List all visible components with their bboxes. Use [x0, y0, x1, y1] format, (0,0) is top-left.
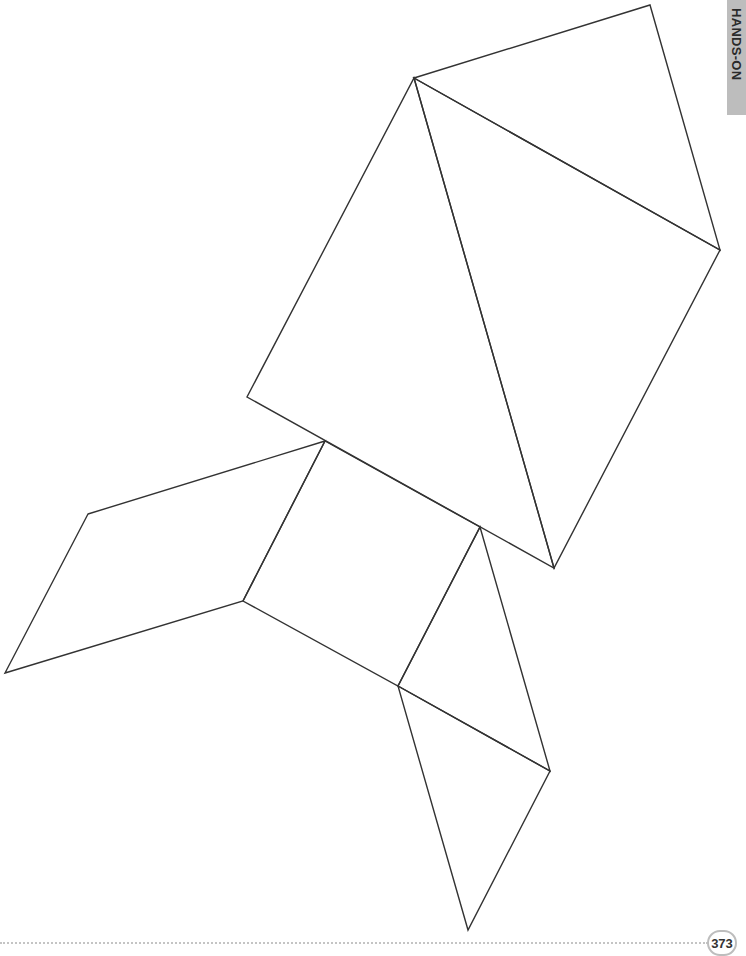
page-number-badge: 373	[707, 930, 737, 956]
section-tab: HANDS-ON	[727, 0, 746, 115]
page-number: 373	[711, 936, 733, 951]
body-quad	[247, 78, 554, 568]
square-center	[243, 441, 480, 686]
large-triangle-left	[414, 78, 720, 568]
triangle-lower-right	[398, 527, 550, 771]
section-tab-label: HANDS-ON	[729, 8, 744, 80]
triangle-bottom	[398, 686, 550, 930]
footer-divider	[0, 942, 708, 944]
parallelogram-left	[5, 441, 325, 673]
large-triangle-top	[414, 5, 720, 250]
